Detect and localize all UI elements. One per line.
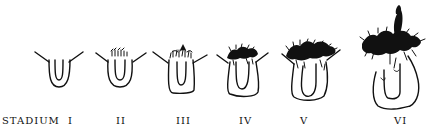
- stadium-label: STADIUM: [2, 115, 60, 127]
- stage-2-drawing: [96, 48, 146, 87]
- stage-drawings: [0, 0, 430, 112]
- stage-4-drawing: [217, 44, 268, 96]
- stage-numeral-3: III: [176, 115, 191, 127]
- stage-5-drawing: [282, 39, 340, 100]
- stage-1-drawing: [35, 52, 83, 87]
- stage-3-drawing: [153, 44, 207, 93]
- stage-numeral-4: IV: [239, 115, 252, 127]
- stage-numeral-6: VI: [394, 115, 407, 127]
- stage-numeral-5: V: [300, 115, 308, 127]
- stage-numeral-2: II: [116, 115, 126, 127]
- stage-6-drawing: [360, 5, 425, 109]
- stage-numeral-1: I: [68, 115, 73, 127]
- stadium-figure: STADIUM I II III IV V VI: [0, 0, 430, 132]
